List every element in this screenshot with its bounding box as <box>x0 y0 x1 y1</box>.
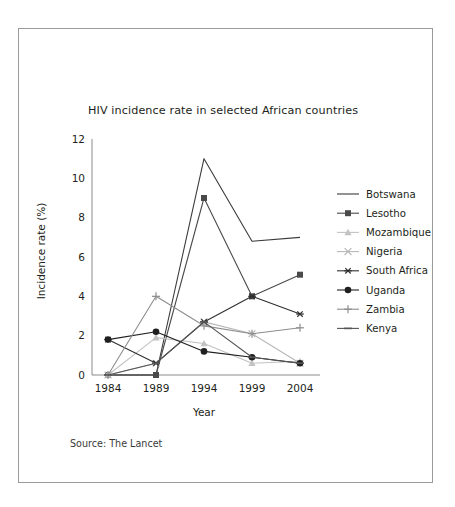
legend-item-zambia[interactable]: Zambia <box>337 304 405 315</box>
legend-item-mozambique[interactable]: Mozambique <box>337 227 431 238</box>
series-line <box>108 332 300 363</box>
x-axis-title: Year <box>192 406 216 418</box>
legend-item-lesotho[interactable]: Lesotho <box>337 208 406 219</box>
chart-series-group <box>104 159 304 379</box>
y-tick-label-3: 6 <box>78 251 85 263</box>
figure-page: HIV incidence rate in selected African c… <box>0 0 455 507</box>
x-tick-label-2: 1994 <box>191 382 218 394</box>
chart-legend: BotswanaLesothoMozambiqueNigeriaSouth Af… <box>337 189 431 334</box>
legend-swatch-marker <box>345 210 351 216</box>
data-point <box>296 311 304 316</box>
legend-label: Kenya <box>366 323 397 334</box>
data-point <box>296 324 304 332</box>
x-tick-label-3: 1999 <box>239 382 266 394</box>
data-point <box>297 272 303 278</box>
series-line <box>108 296 300 375</box>
legend-item-south-africa[interactable]: South Africa <box>337 265 428 276</box>
legend-label: Botswana <box>366 189 416 200</box>
y-tick-label-0: 0 <box>78 369 85 381</box>
legend-label: Mozambique <box>366 227 431 238</box>
data-point <box>105 336 112 343</box>
y-tick-label-6: 12 <box>72 133 85 145</box>
y-axis-title: Incidence rate (%) <box>35 203 47 300</box>
data-point <box>153 372 159 378</box>
legend-item-uganda[interactable]: Uganda <box>337 285 405 296</box>
chart-axes: 02468101219841989199419992004Incidence r… <box>35 133 320 418</box>
series-mozambique <box>104 334 303 378</box>
data-point <box>201 195 207 201</box>
x-tick-label-4: 2004 <box>287 382 314 394</box>
data-point <box>201 348 208 355</box>
legend-item-nigeria[interactable]: Nigeria <box>337 246 402 257</box>
legend-item-botswana[interactable]: Botswana <box>337 189 416 200</box>
legend-label: South Africa <box>366 265 428 276</box>
legend-label: Lesotho <box>366 208 406 219</box>
legend-swatch-marker <box>344 268 352 273</box>
legend-swatch-marker <box>345 287 352 294</box>
x-tick-label-1: 1989 <box>143 382 170 394</box>
y-tick-label-2: 4 <box>78 290 85 302</box>
y-tick-label-1: 2 <box>78 329 85 341</box>
source-note: Source: The Lancet <box>70 438 162 449</box>
legend-label: Uganda <box>366 285 405 296</box>
x-tick-label-0: 1984 <box>95 382 122 394</box>
y-tick-label-5: 10 <box>72 172 85 184</box>
legend-label: Nigeria <box>366 246 402 257</box>
legend-item-kenya[interactable]: Kenya <box>337 323 397 334</box>
legend-label: Zambia <box>366 304 405 315</box>
line-chart: 02468101219841989199419992004Incidence r… <box>0 0 455 507</box>
data-point <box>153 328 160 335</box>
legend-swatch-marker <box>344 305 352 313</box>
y-tick-label-4: 8 <box>78 211 85 223</box>
data-point <box>152 292 160 300</box>
